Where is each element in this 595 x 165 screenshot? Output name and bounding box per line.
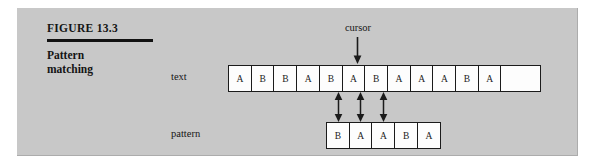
text-cell: A xyxy=(478,65,502,92)
text-cell: B xyxy=(251,65,275,92)
figure-number: FIGURE 13.3 xyxy=(47,22,162,35)
figure-title-line-2: matching xyxy=(47,63,162,77)
text-row-label: text xyxy=(171,71,187,82)
pattern-cell: A xyxy=(371,122,395,149)
pattern-cell: A xyxy=(417,122,441,149)
pattern-cell: A xyxy=(349,122,373,149)
text-cell: A xyxy=(387,65,411,92)
text-cell: A xyxy=(432,65,456,92)
text-cell: B xyxy=(364,65,388,92)
cursor-annotation: cursor xyxy=(330,22,386,66)
arrow-down-icon xyxy=(352,37,363,65)
text-cell: A xyxy=(296,65,320,92)
cursor-label: cursor xyxy=(330,22,386,33)
text-cell: A xyxy=(410,65,434,92)
figure-illustration: FIGURE 13.3 Pattern matching text patter… xyxy=(0,0,595,165)
text-cell: A xyxy=(342,65,366,92)
arrow-up-down-icon xyxy=(333,92,344,122)
figure-title: Pattern matching xyxy=(47,49,162,76)
figure-caption-block: FIGURE 13.3 Pattern matching xyxy=(47,22,162,76)
figure-panel: FIGURE 13.3 Pattern matching text patter… xyxy=(17,8,578,156)
arrow-up-down-icon xyxy=(355,92,366,122)
match-arrow-group xyxy=(326,92,456,122)
text-cell: B xyxy=(273,65,297,92)
text-cell: B xyxy=(319,65,343,92)
text-cell-strip: ABBABABAAABA xyxy=(228,65,541,92)
text-cell: A xyxy=(228,65,252,92)
pattern-row-label: pattern xyxy=(171,128,200,139)
pattern-cell: B xyxy=(394,122,418,149)
text-cell xyxy=(500,65,541,92)
figure-title-line-1: Pattern xyxy=(47,49,162,63)
text-cell: B xyxy=(455,65,479,92)
arrow-up-down-icon xyxy=(378,92,389,122)
pattern-cell-strip: BAABA xyxy=(326,122,441,149)
caption-divider xyxy=(47,39,153,42)
pattern-cell: B xyxy=(326,122,350,149)
